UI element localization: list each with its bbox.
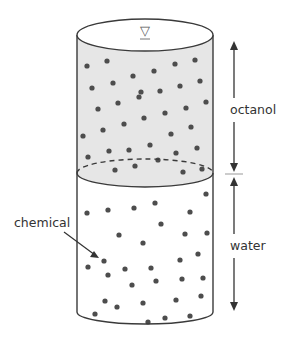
chemical-dot [200,275,205,280]
chemical-dot [138,89,143,94]
chemical-dot [102,298,107,303]
octanol-label: octanol [230,102,276,117]
chemical-dot [80,133,85,138]
chemical-dot [197,78,202,83]
chemical-dot [140,240,145,245]
chemical-dot [140,300,145,305]
chemical-dot [141,115,146,120]
chemical-dot [130,73,135,78]
water-label: water [230,238,266,253]
chemical-dot [203,191,208,196]
chemical-dot [106,148,111,153]
chemical-dot [204,230,209,235]
chemical-dot [158,221,163,226]
chemical-dot [151,68,156,73]
chemical-dot [132,163,137,168]
chemical-dot [162,110,167,115]
chemical-dot [116,232,121,237]
chemical-dot [187,209,192,214]
chemical-dot [121,121,126,126]
chemical-dot [105,207,110,212]
chemical-dot [194,145,199,150]
chemical-dot [84,210,89,215]
chemical-dot [114,304,119,309]
chemical-dot [147,142,152,147]
chemical-dot [101,258,106,263]
chemical-dot [131,205,136,210]
chemical-dot [89,85,94,90]
chemical-dot [84,63,89,68]
chemical-dot [173,297,178,302]
chemical-label: chemical [14,215,70,230]
chemical-dot [105,272,110,277]
chemical-dot [148,265,153,270]
octanol-water-partition-diagram: ▽ octanol water chemical [0,0,286,339]
chemical-dot [172,61,177,66]
chemical-dot [199,166,204,171]
surface-marker-icon: ▽ [140,23,150,38]
chemical-dot [122,266,127,271]
chemical-dot [129,282,134,287]
chemical-dot [155,157,160,162]
chemical-dot [168,131,173,136]
chemical-dot [152,200,157,205]
chemical-dot [104,58,109,63]
chemical-dot [188,124,193,129]
chemical-dot [112,167,117,172]
chemical-dot [92,311,97,316]
chemical-dot [180,169,185,174]
chemical-dot [95,106,100,111]
chemical-dot [136,94,141,99]
chemical-dot [115,100,120,105]
chemical-dot [157,88,162,93]
chemical-dot [162,315,167,320]
chemical-dot [173,150,178,155]
chemical-dot [187,313,192,318]
chemical-dot [177,257,182,262]
chemical-dot [179,276,184,281]
chemical-dot [85,154,90,159]
chemical-dot [100,127,105,132]
chemical-dot [195,251,200,256]
chemical-dot [177,83,182,88]
chemical-dot [182,231,187,236]
chemical-dot [126,147,131,152]
chemical-dot [153,278,158,283]
chemical-dot [198,293,203,298]
chemical-dot [85,264,90,269]
chemical-dot [192,57,197,62]
chemical-dot [203,99,208,104]
chemical-dot [110,80,115,85]
chemical-dot [183,105,188,110]
